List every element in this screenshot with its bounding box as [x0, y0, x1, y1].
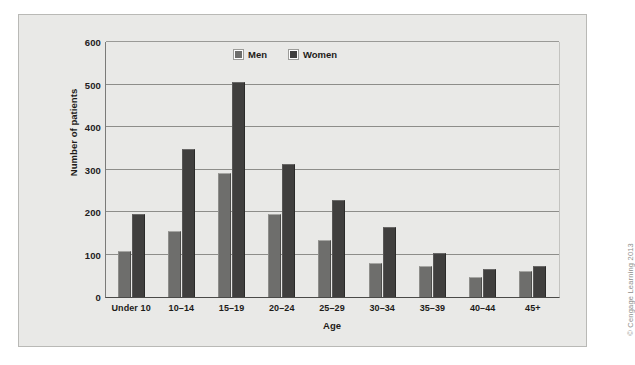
bar-group — [407, 42, 457, 297]
x-tick-label: 25–29 — [307, 303, 357, 313]
bar-women — [533, 266, 546, 297]
bar-women — [182, 149, 195, 297]
bar-group — [307, 42, 357, 297]
y-axis-title: Number of patients — [68, 73, 79, 193]
x-tick-label: 10–14 — [156, 303, 206, 313]
bar-group — [357, 42, 407, 297]
legend-label: Women — [303, 49, 337, 60]
bar-men — [218, 173, 231, 297]
y-tick-label: 500 — [57, 79, 101, 90]
bar-men — [419, 266, 432, 297]
bar-women — [132, 214, 145, 297]
x-tick-label: 45+ — [508, 303, 558, 313]
y-tick-label: 300 — [57, 164, 101, 175]
bar-group — [156, 42, 206, 297]
women-swatch-icon — [289, 50, 298, 59]
y-tick-label: 200 — [57, 207, 101, 218]
y-tick-label: 400 — [57, 122, 101, 133]
x-axis-title: Age — [106, 320, 558, 331]
bar-group — [458, 42, 508, 297]
bar-groups — [106, 42, 558, 297]
bar-women — [383, 227, 396, 297]
legend-label: Men — [248, 49, 267, 60]
bar-group — [206, 42, 256, 297]
bar-women — [483, 269, 496, 297]
legend-item-men: Men — [234, 49, 267, 60]
bar-men — [369, 263, 382, 297]
legend-item-women: Women — [289, 49, 337, 60]
x-tick-label: 35–39 — [407, 303, 457, 313]
x-axis-ticks: Under 1010–1415–1920–2425–2930–3435–3940… — [106, 303, 558, 313]
x-tick-label: 15–19 — [206, 303, 256, 313]
x-tick-label: 20–24 — [257, 303, 307, 313]
bar-men — [318, 240, 331, 297]
bar-group — [257, 42, 307, 297]
chart-legend: MenWomen — [234, 49, 337, 60]
bar-men — [268, 214, 281, 297]
chart-panel: 0100200300400500600 Number of patients U… — [18, 14, 587, 347]
bar-men — [469, 277, 482, 297]
bar-group — [508, 42, 558, 297]
bar-women — [332, 200, 345, 297]
copyright-credit: © Cengage Learning 2013 — [626, 243, 635, 336]
bar-men — [168, 231, 181, 297]
y-tick-label: 0 — [57, 292, 101, 303]
bar-group — [106, 42, 156, 297]
x-tick-label: 30–34 — [357, 303, 407, 313]
bar-women — [433, 253, 446, 297]
y-tick-label: 100 — [57, 249, 101, 260]
bar-women — [232, 82, 245, 297]
x-tick-label: 40–44 — [458, 303, 508, 313]
bar-men — [118, 251, 131, 297]
x-tick-label: Under 10 — [106, 303, 156, 313]
bar-women — [282, 164, 295, 297]
y-tick-label: 600 — [57, 37, 101, 48]
men-swatch-icon — [234, 50, 243, 59]
bar-men — [519, 271, 532, 297]
